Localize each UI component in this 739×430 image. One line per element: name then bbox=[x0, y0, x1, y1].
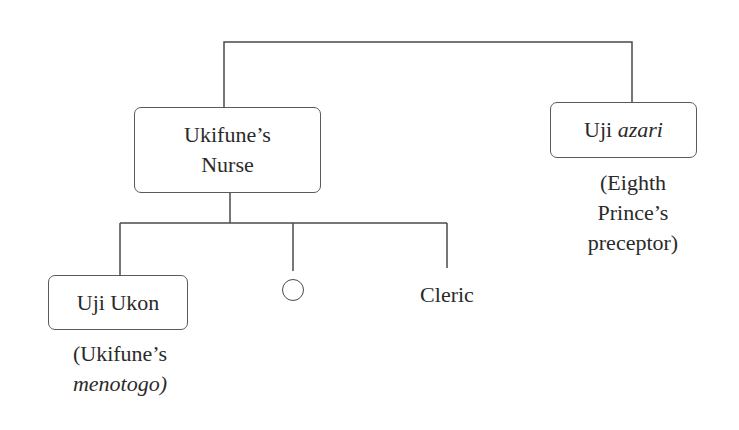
node-cleric: Cleric bbox=[400, 280, 494, 310]
ukon-note-line2: menotogo) bbox=[50, 369, 190, 399]
azari-note-line3: preceptor) bbox=[560, 228, 706, 258]
azari-name-italic: azari bbox=[618, 117, 663, 142]
nurse-label-line2: Nurse bbox=[201, 150, 254, 180]
unnamed-child-circle-icon bbox=[282, 279, 304, 301]
nurse-label-line1: Ukifune’s bbox=[184, 120, 271, 150]
node-uji-azari: Uji azari bbox=[550, 102, 697, 158]
azari-note-line2: Prince’s bbox=[560, 198, 706, 228]
ukon-label: Uji Ukon bbox=[77, 288, 160, 318]
azari-label: Uji azari bbox=[584, 115, 663, 145]
azari-note: (Eighth Prince’s preceptor) bbox=[560, 168, 706, 258]
azari-note-line1: (Eighth bbox=[560, 168, 706, 198]
top-sibling-connector bbox=[224, 42, 632, 108]
node-uji-ukon: Uji Ukon bbox=[48, 275, 188, 330]
node-ukifunes-nurse: Ukifune’s Nurse bbox=[134, 107, 321, 193]
ukon-note: (Ukifune’s menotogo) bbox=[50, 339, 190, 399]
ukon-note-line1: (Ukifune’s bbox=[50, 339, 190, 369]
cleric-label: Cleric bbox=[420, 282, 474, 307]
genealogy-diagram: Ukifune’s Nurse Uji azari (Eighth Prince… bbox=[0, 0, 739, 430]
azari-name-plain: Uji bbox=[584, 117, 618, 142]
